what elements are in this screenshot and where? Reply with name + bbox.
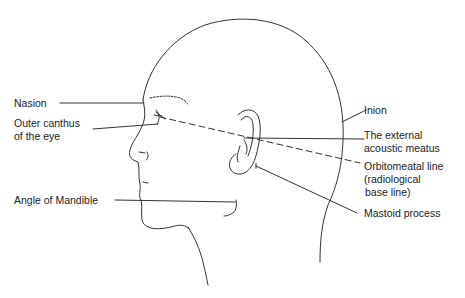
label-orbitomeatal-line-line3: base line) <box>365 186 411 199</box>
nostril <box>139 152 148 160</box>
label-inion: Inion <box>364 104 387 117</box>
label-external-acoustic-meatus-line1: The external <box>364 129 422 142</box>
label-mastoid-process: Mastoid process <box>364 207 440 220</box>
head-landmarks-diagram: Nasion Outer canthus of the eye Angle of… <box>0 0 465 298</box>
label-outer-canthus-line2: of the eye <box>14 130 60 143</box>
label-nasion: Nasion <box>14 97 47 110</box>
label-orbitomeatal-line-line2: (radiological <box>364 173 421 186</box>
label-angle-of-mandible: Angle of Mandible <box>14 194 98 207</box>
head-outline <box>143 19 343 262</box>
ear-inner <box>237 117 253 162</box>
outer-canthus-leader <box>93 124 158 129</box>
mastoid-process-leader <box>256 166 357 213</box>
label-orbitomeatal-line-line1: Orbitomeatal line <box>364 160 443 173</box>
face-profile <box>129 100 190 230</box>
angle-of-mandible-leader <box>115 200 235 202</box>
label-outer-canthus-line1: Outer canthus <box>14 117 80 130</box>
eyebrow <box>150 96 188 104</box>
neck-front <box>188 227 208 285</box>
label-external-acoustic-meatus-line2: acoustic meatus <box>364 142 440 155</box>
external-acoustic-meatus-leader <box>244 138 364 139</box>
inion-leader <box>342 110 366 122</box>
mouth <box>143 182 148 183</box>
